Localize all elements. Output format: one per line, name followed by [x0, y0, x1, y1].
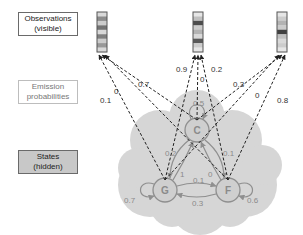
- state-label: G: [161, 185, 169, 196]
- observation-bar-obs3: [277, 12, 287, 52]
- observation-band: [193, 12, 203, 17]
- transition-label-C-F: 0.1: [223, 149, 235, 158]
- emission-label-C-obs2: 0: [200, 75, 205, 84]
- observation-band: [97, 16, 107, 21]
- observation-band: [193, 43, 203, 48]
- emission-label-G-obs2: 0.9: [176, 65, 188, 74]
- hmm-diagram: 0.50.70.60.210.100.10.3 CGF 0.100.70.900…: [0, 0, 303, 235]
- observation-band: [193, 25, 203, 30]
- cloud-blob: [118, 148, 158, 188]
- observation-band: [277, 39, 287, 44]
- transition-label-G-C: 1: [180, 170, 185, 179]
- observation-band: [97, 12, 107, 17]
- observation-band: [193, 21, 203, 26]
- state-space-cloud: [118, 90, 282, 235]
- cloud-blob: [242, 145, 282, 185]
- state-node-F: F: [216, 178, 240, 202]
- observation-bar-obs2: [193, 12, 203, 52]
- observation-band: [277, 43, 287, 48]
- emission-label-F-obs1: 0.7: [138, 80, 150, 89]
- emission-label-C-obs1: 0: [114, 87, 119, 96]
- transition-label-F-G: 0.3: [192, 199, 204, 208]
- emission-label-G-obs1: 0.1: [100, 96, 112, 105]
- observation-band: [277, 30, 287, 35]
- transition-label-G-F: 0.1: [193, 176, 205, 185]
- state-label: C: [193, 125, 200, 136]
- observation-band: [193, 34, 203, 39]
- observation-band: [193, 16, 203, 21]
- state-label: F: [225, 185, 231, 196]
- observation-band: [277, 21, 287, 26]
- observation-band: [97, 34, 107, 39]
- observation-band: [277, 12, 287, 17]
- emission-label-C-obs3: 0: [255, 91, 260, 100]
- emission-label-F-obs2: 0.2: [211, 65, 223, 74]
- observation-band: [193, 30, 203, 35]
- transition-label-G-G: 0.7: [124, 196, 136, 205]
- observation-band: [277, 34, 287, 39]
- observation-band: [97, 43, 107, 48]
- observation-band: [97, 21, 107, 26]
- observation-bar-obs1: [97, 12, 107, 52]
- observation-band: [193, 39, 203, 44]
- observation-band: [97, 25, 107, 30]
- transition-label-C-G: 0.2: [165, 149, 177, 158]
- transition-label-F-F: 0.6: [247, 196, 259, 205]
- transition-label-C-C: 0.5: [193, 99, 205, 108]
- observation-band: [277, 16, 287, 21]
- state-node-C: C: [185, 118, 209, 142]
- emission-label-F-obs3: 0.8: [277, 96, 289, 105]
- transition-label-F-C: 0: [208, 170, 213, 179]
- observation-band: [97, 39, 107, 44]
- observation-band: [97, 30, 107, 35]
- state-node-G: G: [153, 178, 177, 202]
- observation-band: [277, 25, 287, 30]
